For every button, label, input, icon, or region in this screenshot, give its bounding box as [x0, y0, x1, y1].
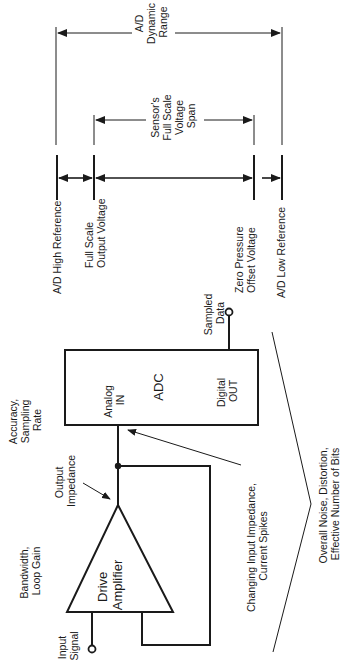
drive-amplifier-label: Drive Amplifier: [95, 559, 125, 610]
output-impedance-label: Output Impedance: [53, 455, 77, 507]
input-terminal-icon: [89, 646, 96, 653]
sensor-span-dimension: Sensor's Full Scale Voltage Span: [94, 91, 254, 145]
accuracy-sampling-rate-label: Accuracy, Sampling Rate: [7, 396, 43, 444]
changing-impedance-label: Changing Input Impedance, Current Spikes: [245, 480, 269, 612]
adc-label: ADC: [151, 373, 166, 400]
reference-levels: A/D High Reference Full Scale Output Vol…: [51, 155, 287, 298]
ad-dynamic-range-label: A/D Dynamic Range: [133, 0, 169, 44]
output-impedance-arrow-icon: [83, 483, 110, 499]
adc-signal-chain-diagram: A/D Dynamic Range Sensor's Full Scale Vo…: [0, 0, 358, 666]
full-scale-output-label: Full Scale Output Voltage: [83, 198, 107, 268]
input-signal-label: Input Signal: [56, 631, 80, 660]
adc-block: ADC Analog IN Digital OUT: [65, 350, 258, 425]
drive-amplifier: Drive Amplifier: [67, 505, 173, 612]
sensor-span-label: Sensor's Full Scale Voltage Span: [149, 91, 197, 140]
ad-high-reference-label: A/D High Reference: [51, 200, 63, 294]
bandwidth-loop-gain-label: Bandwidth, Loop Gain: [18, 544, 42, 599]
ad-low-reference-label: A/D Low Reference: [275, 207, 287, 298]
digital-out-label: Digital OUT: [215, 375, 239, 407]
input-signal: Input Signal: [56, 612, 96, 661]
overall-bracket: [272, 332, 311, 652]
feedback-loop-line: [118, 466, 210, 645]
diagram-svg: A/D Dynamic Range Sensor's Full Scale Vo…: [0, 0, 358, 666]
zero-pressure-offset-label: Zero Pressure Offset Voltage: [233, 224, 257, 293]
sampled-data-terminal-icon: [226, 309, 233, 316]
analog-in-label: Analog IN: [102, 382, 126, 418]
changing-impedance-arrow-icon: [128, 430, 241, 465]
sampled-data-label: Sampled Data: [202, 291, 226, 335]
overall-noise-label: Overall Noise, Distortion, Effective Num…: [317, 444, 341, 563]
sampled-data-output: Sampled Data: [202, 291, 233, 350]
